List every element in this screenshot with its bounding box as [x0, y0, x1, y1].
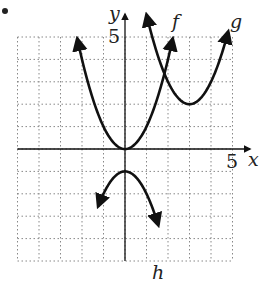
- y-axis-label: y: [109, 4, 120, 23]
- label-g: g: [230, 12, 242, 31]
- curve-h: [98, 171, 158, 225]
- x-tick-5: 5: [226, 152, 238, 171]
- graph: [0, 0, 272, 294]
- label-f: f: [172, 12, 179, 31]
- axes: [18, 14, 251, 261]
- y-tick-5: 5: [108, 27, 120, 46]
- label-h: h: [152, 263, 164, 282]
- x-axis-label: x: [248, 150, 259, 169]
